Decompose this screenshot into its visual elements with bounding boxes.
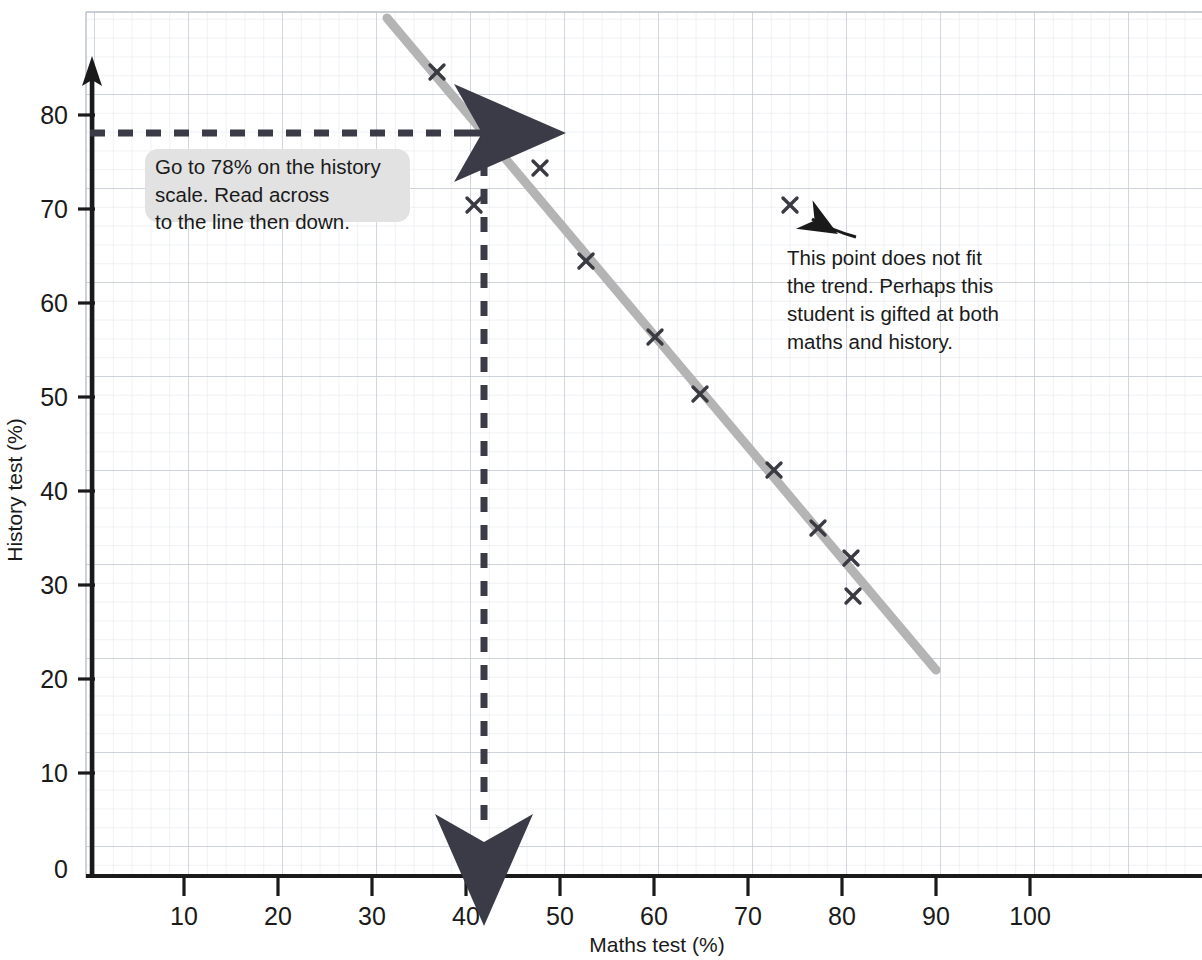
x-tick-label: 90 — [922, 902, 950, 930]
grid-background — [86, 12, 1202, 878]
y-tick-label: 60 — [40, 289, 68, 317]
x-tick-label: 20 — [264, 902, 292, 930]
annotation-line: Go to 78% on the history — [155, 155, 381, 178]
x-tick-label: 60 — [640, 902, 668, 930]
x-tick-label: 40 — [452, 902, 480, 930]
y-tick-label: 50 — [40, 383, 68, 411]
y-tick-label: 40 — [40, 477, 68, 505]
y-tick-label: 0 — [54, 855, 68, 883]
x-tick-label: 80 — [828, 902, 856, 930]
x-tick-label: 50 — [546, 902, 574, 930]
y-tick-label: 10 — [40, 759, 68, 787]
x-axis-tick-labels: 10 20 30 40 50 60 70 80 90 100 — [170, 902, 1051, 930]
y-tick-label: 70 — [40, 195, 68, 223]
chart-canvas: 80 70 60 50 40 30 20 10 0 10 20 30 40 50… — [0, 0, 1202, 960]
y-tick-label: 20 — [40, 665, 68, 693]
chart-figure: 80 70 60 50 40 30 20 10 0 10 20 30 40 50… — [0, 0, 1202, 960]
annotation-line: to the line then down. — [155, 210, 350, 233]
y-axis-title: History test (%) — [3, 418, 26, 562]
x-tick-label: 10 — [170, 902, 198, 930]
x-tick-label: 100 — [1009, 902, 1051, 930]
annotation-line: maths and history. — [787, 330, 953, 353]
x-axis-ticks — [184, 876, 1030, 896]
annotation-line: the trend. Perhaps this — [787, 274, 993, 297]
y-tick-label: 80 — [40, 101, 68, 129]
x-tick-label: 30 — [358, 902, 386, 930]
y-axis-tick-labels: 80 70 60 50 40 30 20 10 0 — [40, 101, 68, 883]
annotation-line: scale. Read across — [155, 183, 329, 206]
annotation-line: student is gifted at both — [787, 302, 999, 325]
y-tick-label: 30 — [40, 571, 68, 599]
x-tick-label: 70 — [734, 902, 762, 930]
x-axis-title: Maths test (%) — [589, 933, 724, 956]
annotation-line: This point does not fit — [787, 246, 982, 269]
